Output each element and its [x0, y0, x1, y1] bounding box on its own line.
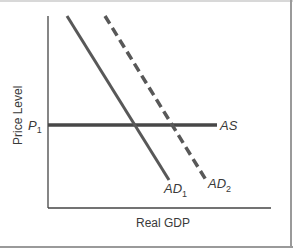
chart-frame: Price Level P1 AS AD1 AD2 Real GDP — [0, 0, 293, 248]
chart-svg: Price Level P1 AS AD1 AD2 Real GDP — [0, 0, 293, 248]
x-axis-label: Real GDP — [136, 216, 190, 230]
ad1-curve — [67, 16, 169, 180]
y-axis-label: Price Level — [11, 86, 25, 145]
ad2-curve — [105, 16, 206, 180]
p1-tick-label: P1 — [28, 118, 42, 135]
ad1-label: AD1 — [163, 181, 187, 199]
ad2-label: AD2 — [207, 176, 231, 194]
as-label: AS — [219, 118, 238, 133]
